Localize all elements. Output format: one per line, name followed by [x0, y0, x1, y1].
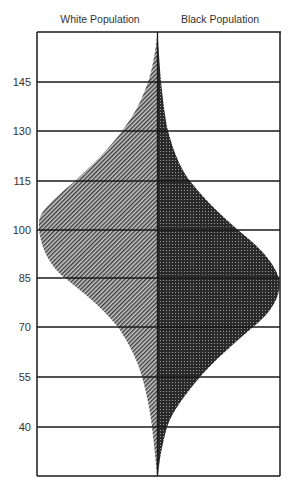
black-population-header: Black Population — [181, 13, 259, 25]
tick-label: 70 — [19, 321, 31, 333]
white-population-area — [39, 36, 157, 476]
tick-label: 145 — [13, 76, 31, 88]
black-population-area — [158, 40, 280, 476]
tick-label: 100 — [13, 224, 31, 236]
tick-label: 115 — [13, 175, 31, 187]
population-distribution-chart: White Population Black Population 145 13… — [0, 0, 295, 491]
tick-label: 85 — [19, 272, 31, 284]
tick-label: 40 — [19, 421, 31, 433]
white-population-header: White Population — [60, 13, 140, 25]
tick-label: 55 — [19, 371, 31, 383]
tick-label: 130 — [13, 125, 31, 137]
y-axis-labels: 145 130 115 100 85 70 55 40 — [13, 76, 31, 433]
